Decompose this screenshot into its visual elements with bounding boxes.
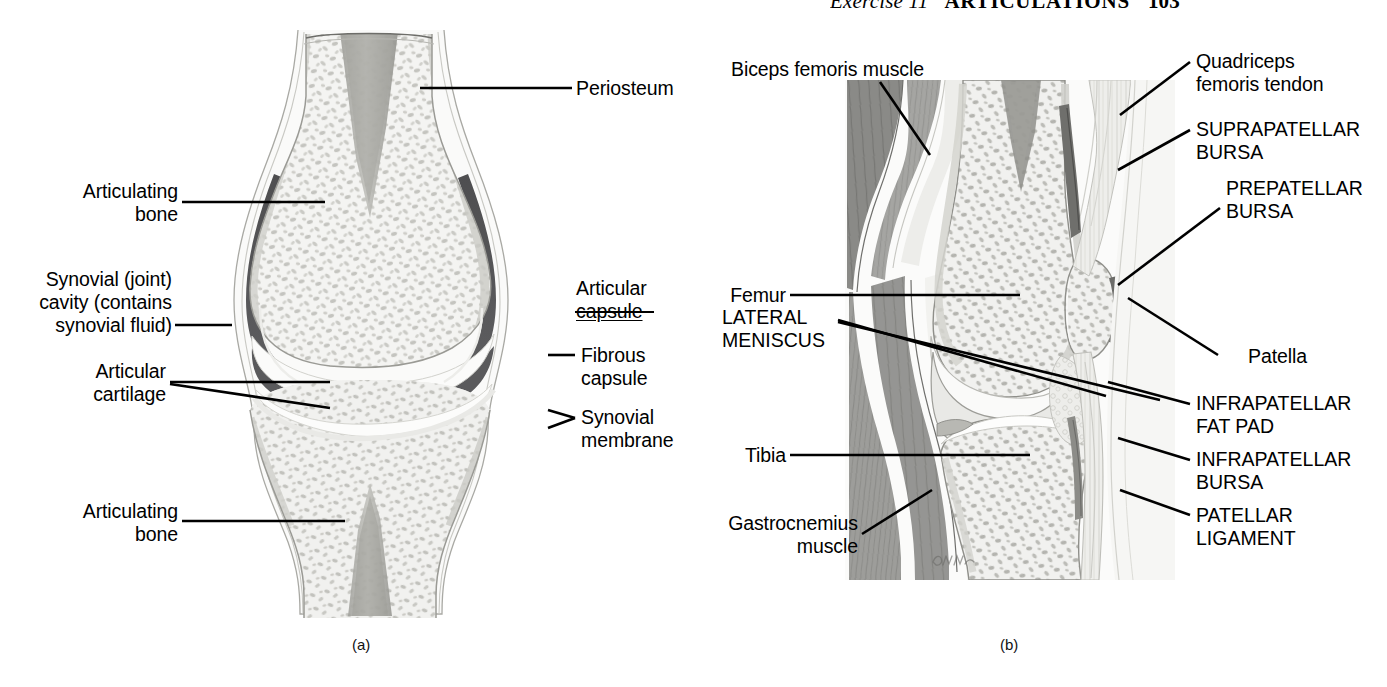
label-articular-cartilage: Articular cartilage — [0, 360, 166, 406]
label-patellar-ligament: PATELLAR LIGAMENT — [1196, 504, 1296, 550]
label-fibrous-capsule: Fibrous capsule — [581, 344, 648, 390]
label-infrapatellar-fat-pad: INFRAPATELLAR FAT PAD — [1196, 392, 1351, 438]
label-biceps-femoris: Biceps femoris muscle — [731, 58, 924, 81]
label-gastrocnemius: Gastrocnemius muscle — [680, 512, 858, 558]
figure-page: Exercise 11ARTICULATIONS103 — [0, 0, 1387, 687]
label-synovial-cavity: Synovial (joint) cavity (contains synovi… — [0, 268, 172, 337]
articular-capsule-line-2: capsule — [576, 300, 643, 322]
caption-panel-b: (b) — [1000, 636, 1018, 653]
label-infrapatellar-bursa: INFRAPATELLAR BURSA — [1196, 448, 1351, 494]
label-quadriceps-tendon: Quadriceps femoris tendon — [1196, 50, 1324, 96]
label-lateral-meniscus: LATERAL MENISCUS — [722, 306, 825, 352]
panel-a-illustration — [180, 18, 570, 618]
label-articular-capsule: Articularcapsule — [576, 277, 647, 323]
label-articulating-bone-top: Articulating bone — [0, 180, 178, 226]
running-head-title: ARTICULATIONS — [944, 0, 1129, 13]
panel-b-illustration — [845, 80, 1175, 580]
label-tibia: Tibia — [640, 444, 786, 467]
label-patella: Patella — [1248, 345, 1307, 368]
articular-capsule-line-1: Articular — [576, 277, 647, 299]
label-suprapatellar-bursa: SUPRAPATELLAR BURSA — [1196, 118, 1360, 164]
label-prepatellar-bursa: PREPATELLAR BURSA — [1226, 177, 1363, 223]
label-periosteum: Periosteum — [576, 77, 674, 100]
label-femur: Femur — [640, 284, 786, 307]
label-articulating-bone-bottom: Articulating bone — [0, 500, 178, 546]
running-head: Exercise 11ARTICULATIONS103 — [830, 0, 1290, 15]
caption-panel-a: (a) — [352, 636, 370, 653]
running-head-exercise: Exercise 11 — [830, 0, 928, 13]
running-head-page-number: 103 — [1148, 0, 1180, 13]
